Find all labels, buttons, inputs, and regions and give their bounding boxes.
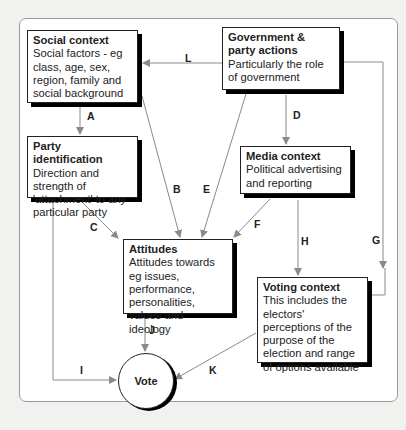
- node-body: Direction and strength of 'attachment' t…: [33, 167, 126, 219]
- edge-label-b: B: [173, 183, 181, 195]
- node-voting-context: Voting context This includes the elector…: [257, 277, 368, 363]
- node-title: Attitudes: [129, 243, 227, 256]
- node-party-identification: Party identification Direction and stren…: [27, 136, 138, 198]
- node-title: Government & party actions: [228, 31, 334, 58]
- node-body: Social factors - eg class, age, sex, reg…: [33, 47, 123, 99]
- edge-label-c: C: [90, 221, 98, 233]
- edge-label-h: H: [301, 235, 309, 247]
- node-attitudes: Attitudes Attitudes towards eg issues, p…: [123, 239, 233, 314]
- node-title: Voting context: [263, 281, 362, 294]
- edge-label-g: G: [372, 234, 380, 246]
- node-media-context: Media context Political advertising and …: [240, 146, 351, 194]
- edge-label-i: I: [80, 364, 83, 376]
- node-body: Particularly the role of government: [228, 58, 324, 83]
- edge-label-a: A: [87, 110, 95, 122]
- node-social-context: Social context Social factors - eg class…: [27, 30, 138, 103]
- edge-label-d: D: [293, 109, 301, 121]
- node-government-party-actions: Government & party actions Particularly …: [222, 27, 340, 90]
- node-vote: Vote: [118, 353, 174, 409]
- edge-label-f: F: [254, 218, 260, 230]
- node-body: Political advertising and reporting: [246, 163, 342, 188]
- edge-label-l: L: [185, 52, 191, 64]
- node-title: Social context: [33, 34, 132, 47]
- node-body: This includes the electors' perceptions …: [263, 294, 359, 372]
- edge-label-j: J: [149, 324, 155, 336]
- edge-label-e: E: [203, 183, 210, 195]
- node-title: Media context: [246, 150, 345, 163]
- node-title: Vote: [134, 375, 157, 387]
- node-body: Attitudes towards eg issues, performance…: [129, 256, 215, 334]
- node-title: Party identification: [33, 140, 132, 167]
- edge-label-k: K: [209, 364, 217, 376]
